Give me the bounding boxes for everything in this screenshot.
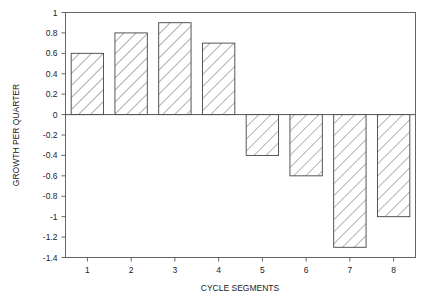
y-axis-title: GROWTH PER QUARTER	[11, 84, 21, 186]
x-axis-ticks: 12345678	[85, 258, 396, 275]
y-tick-label: -1.2	[43, 232, 58, 242]
y-axis-ticks: 10.80.60.40.20-0.2-0.4-0.6-0.8-1-1.2-1.4	[43, 8, 66, 263]
bar-segment-3	[159, 23, 191, 115]
y-tick-label: -0.2	[43, 130, 58, 140]
x-tick-label: 2	[129, 265, 134, 275]
bar-segment-6	[290, 115, 322, 176]
y-tick-label: -1.4	[43, 253, 58, 263]
bar-segment-5	[246, 115, 278, 156]
x-tick-label: 7	[348, 265, 353, 275]
y-tick-label: -0.6	[43, 171, 58, 181]
x-tick-label: 5	[260, 265, 265, 275]
x-axis-title: CYCLE SEGMENTS	[201, 283, 280, 293]
y-tick-label: -0.8	[43, 191, 58, 201]
x-tick-label: 3	[173, 265, 178, 275]
y-tick-label: 0.4	[46, 69, 58, 79]
y-tick-label: 1	[53, 8, 58, 18]
bar-segment-8	[377, 115, 409, 217]
x-tick-label: 1	[85, 265, 90, 275]
bar-segment-2	[115, 33, 147, 115]
y-tick-label: 0	[53, 110, 58, 120]
x-tick-label: 6	[304, 265, 309, 275]
x-tick-label: 8	[391, 265, 396, 275]
bar-segment-7	[334, 115, 366, 248]
bar-segment-1	[71, 53, 103, 114]
y-tick-label: 0.2	[46, 89, 58, 99]
bar-segment-4	[202, 43, 234, 114]
bar-series	[71, 23, 410, 248]
y-tick-label: 0.6	[46, 48, 58, 58]
bar-chart: 10.80.60.40.20-0.2-0.4-0.6-0.8-1-1.2-1.4…	[0, 0, 426, 298]
y-tick-label: 0.8	[46, 28, 58, 38]
x-tick-label: 4	[216, 265, 221, 275]
y-tick-label: -1	[50, 212, 58, 222]
y-tick-label: -0.4	[43, 150, 58, 160]
